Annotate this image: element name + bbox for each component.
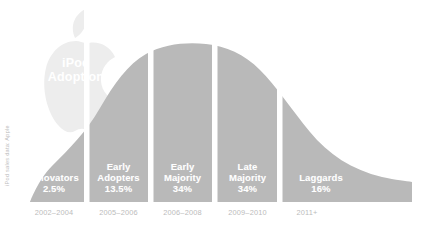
divider-4 <box>277 0 283 206</box>
divider-2 <box>148 0 154 206</box>
baseline-mask <box>0 202 422 226</box>
adoption-curve-graphic <box>0 0 422 226</box>
divider-1 <box>84 0 90 206</box>
divider-3 <box>212 0 218 206</box>
curve-fill <box>0 0 422 226</box>
ipod-adoption-curve-chart: iPod Adoption iPod sales data: Apple Inn… <box>0 0 422 226</box>
